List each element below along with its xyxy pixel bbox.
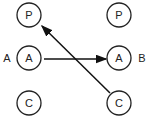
diagram-canvas: P A C P A C A B [0, 0, 151, 123]
side-label-left: A [3, 52, 11, 64]
node-label: C [25, 97, 33, 109]
node-right-c: C [107, 91, 131, 115]
node-left-c: C [17, 91, 41, 115]
side-label-right: B [138, 52, 145, 64]
node-label: P [25, 9, 32, 21]
node-label: C [115, 97, 123, 109]
node-right-a: A [107, 46, 131, 70]
node-label: A [25, 52, 33, 64]
node-left-a: A [17, 46, 41, 70]
node-right-p: P [107, 3, 131, 27]
node-label: P [115, 9, 122, 21]
node-label: A [115, 52, 123, 64]
node-left-p: P [17, 3, 41, 27]
